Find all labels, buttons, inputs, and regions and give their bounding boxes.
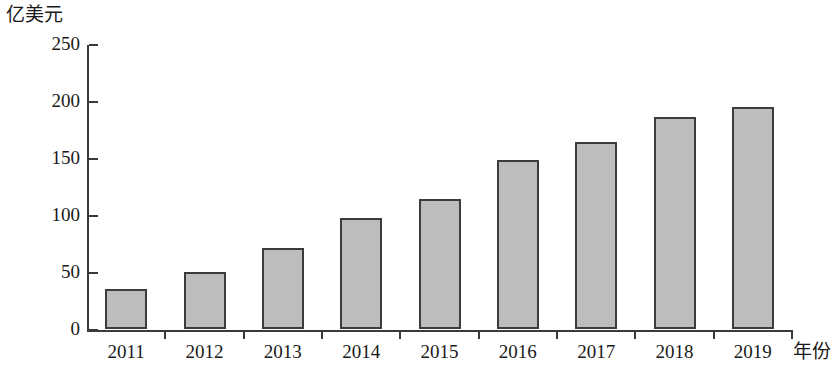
y-axis-tick-label: 200 <box>52 91 81 110</box>
bar <box>732 107 774 329</box>
x-axis-tick-label: 2014 <box>342 340 380 364</box>
x-axis-tick <box>243 330 245 339</box>
bar <box>184 272 226 329</box>
x-axis-tick <box>556 330 558 339</box>
y-axis-tick: 200 <box>89 101 98 103</box>
plot-area: 050100150200250 <box>87 45 792 331</box>
y-axis-unit-label: 亿美元 <box>6 4 63 26</box>
bar <box>262 248 304 329</box>
bar-chart: 亿美元 050100150200250 20112012201320142015… <box>0 0 836 371</box>
x-axis-tick <box>478 330 480 339</box>
x-axis-tick <box>321 330 323 339</box>
x-axis-line <box>87 330 793 332</box>
bar <box>654 117 696 329</box>
x-axis-tick <box>634 330 636 339</box>
y-axis-tick-label: 150 <box>52 148 81 167</box>
y-axis-tick-label: 50 <box>61 262 80 281</box>
x-axis-tick <box>713 330 715 339</box>
y-axis-tick: 250 <box>89 44 98 46</box>
y-axis-tick: 100 <box>89 215 98 217</box>
y-axis-tick: 0 <box>89 329 98 331</box>
bar <box>575 142 617 329</box>
y-axis-line <box>87 45 89 332</box>
bar <box>340 218 382 329</box>
y-axis-tick: 150 <box>89 158 98 160</box>
bar <box>419 199 461 329</box>
y-axis-tick-label: 100 <box>52 205 81 224</box>
x-axis-tick-label: 2015 <box>421 340 459 364</box>
y-axis-tick-label: 0 <box>71 319 81 338</box>
x-axis-tick <box>791 330 793 339</box>
x-axis-tick-label: 2012 <box>186 340 224 364</box>
x-axis-tick <box>399 330 401 339</box>
x-axis-tick-label: 2019 <box>734 340 772 364</box>
y-axis-tick: 50 <box>89 272 98 274</box>
x-axis-tick <box>164 330 166 339</box>
x-axis-tick-label: 2016 <box>499 340 537 364</box>
bar <box>105 289 147 329</box>
x-axis-tick-label: 2011 <box>108 340 145 364</box>
x-axis-title: 年份 <box>793 340 831 364</box>
x-axis-tick-label: 2018 <box>656 340 694 364</box>
x-axis-tick-label: 2013 <box>264 340 302 364</box>
y-axis-tick-label: 250 <box>52 34 81 53</box>
bar <box>497 160 539 329</box>
x-axis-tick-labels: 201120122013201420152016201720182019 <box>87 340 792 368</box>
x-axis-tick-label: 2017 <box>577 340 615 364</box>
